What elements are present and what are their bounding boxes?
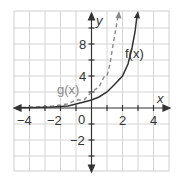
- tick-label-y-neg2: −2: [70, 133, 85, 148]
- coordinate-plane: y x f(x) g(x) −4 −2 0 2 4 8 4 −2: [0, 0, 176, 183]
- tick-label-x-0: 0: [78, 112, 85, 127]
- tick-label-y-4: 4: [79, 69, 86, 84]
- tick-label-x-4: 4: [150, 113, 157, 128]
- f-arrow-icon: [134, 11, 140, 19]
- tick-label-x-neg4: −4: [17, 113, 32, 128]
- y-axis-up-arrow-icon: [89, 13, 95, 20]
- g-label: g(x): [57, 82, 79, 97]
- g-arrow-icon: [116, 11, 122, 19]
- tick-label-y-8: 8: [79, 37, 86, 52]
- f-label: f(x): [125, 46, 144, 61]
- y-axis-label: y: [95, 13, 104, 28]
- x-axis-label: x: [156, 91, 164, 106]
- tick-label-x-neg2: −2: [47, 113, 62, 128]
- tick-label-x-2: 2: [119, 113, 126, 128]
